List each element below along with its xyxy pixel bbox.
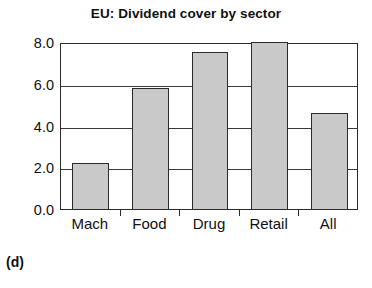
plot-area (60, 43, 358, 210)
panel-caption: (d) (6, 253, 24, 271)
y-tick-label: 2.0 (0, 161, 54, 175)
figure-panel: EU: Dividend cover by sector 0.02.04.06.… (0, 0, 372, 288)
x-tick-label-retail: Retail (239, 214, 299, 234)
x-tick-label-mach: Mach (60, 214, 120, 234)
y-tick-label: 4.0 (0, 120, 54, 134)
chart-title: EU: Dividend cover by sector (0, 6, 372, 22)
y-tick-label: 6.0 (0, 78, 54, 92)
x-tick-label-food: Food (120, 214, 180, 234)
y-tick-label: 0.0 (0, 203, 54, 217)
y-tick-label: 8.0 (0, 36, 54, 50)
bar-retail (251, 42, 288, 209)
bar-drug (192, 52, 229, 209)
bar-series (61, 44, 357, 209)
x-axis: MachFoodDrugRetailAll (60, 214, 358, 238)
y-axis: 0.02.04.06.08.0 (0, 43, 54, 210)
bar-mach (72, 163, 109, 209)
bar-food (132, 88, 169, 209)
x-tick-label-all: All (298, 214, 358, 234)
x-tick-label-drug: Drug (179, 214, 239, 234)
bar-all (311, 113, 348, 209)
